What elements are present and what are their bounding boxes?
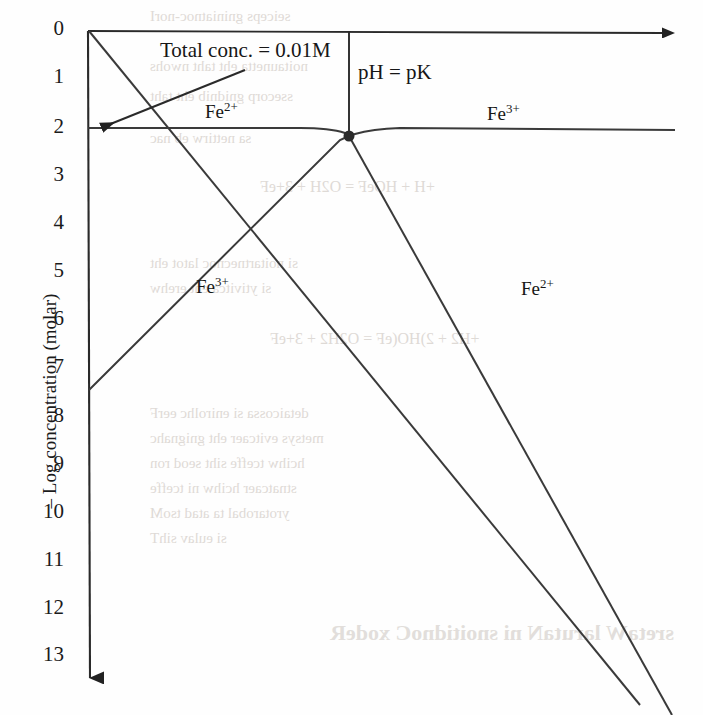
y-tick-13: 13 — [24, 642, 64, 667]
fe3-rising-label-base: Fe — [196, 276, 215, 297]
fe2-falling-label-charge: 2+ — [540, 276, 554, 291]
fe3-rising-label-charge: 3+ — [215, 274, 229, 289]
fe2-falling-label: Fe2+ — [521, 276, 554, 300]
fe3-rising-label: Fe3+ — [196, 274, 229, 298]
y-tick-1: 1 — [24, 64, 64, 89]
y-tick-4: 4 — [24, 210, 64, 235]
total-concentration-label: Total conc. = 0.01M — [160, 38, 331, 63]
fe3-plateau-curve — [349, 128, 675, 136]
fe2-plateau-label-base: Fe — [205, 101, 224, 122]
y-tick-12: 12 — [24, 595, 64, 620]
fe2-plateau-label: Fe2+ — [205, 99, 238, 123]
y-tick-0: 0 — [24, 16, 64, 41]
fe3-plateau-label: Fe3+ — [487, 101, 520, 125]
crossover-descending-line — [349, 136, 672, 715]
x-axis-line — [88, 31, 663, 33]
crossover-point — [344, 131, 355, 142]
fe2-plateau-label-charge: 2+ — [224, 99, 238, 114]
fe3-rising-line — [89, 136, 349, 390]
ph-equals-pk-label: pH = pK — [358, 60, 432, 85]
figure-page: seiceps gniniatnoc-norI noitaunetta eht … — [0, 0, 703, 715]
concentration-vs-ph-diagram — [0, 0, 703, 715]
y-tick-3: 3 — [24, 162, 64, 187]
fe3-plateau-label-base: Fe — [487, 103, 506, 124]
y-tick-2: 2 — [24, 114, 64, 139]
fe2-plateau-curve — [88, 128, 349, 136]
y-axis-title: – Log concentration (molar) — [39, 241, 61, 561]
fe3-plateau-label-charge: 3+ — [506, 101, 520, 116]
fe2-falling-label-base: Fe — [521, 278, 540, 299]
